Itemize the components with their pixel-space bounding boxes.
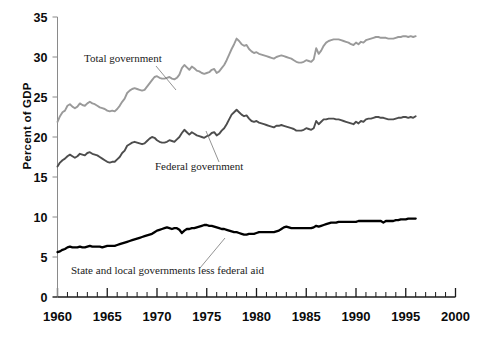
y-tick-label-25: 25 (34, 91, 48, 105)
x-tick-label-1990: 1990 (342, 309, 371, 324)
y-tick-label-0: 0 (41, 291, 48, 305)
y-tick-label-10: 10 (34, 211, 48, 225)
series-annotations-group: Total governmentFederal governmentState … (71, 52, 265, 276)
x-tick-label-1975: 1975 (192, 309, 221, 324)
x-tick-label-1995: 1995 (391, 309, 420, 324)
y-tick-label-15: 15 (34, 171, 48, 185)
x-tick-label-1985: 1985 (292, 309, 321, 324)
series-line-1 (58, 110, 416, 167)
x-tick-label-2000: 2000 (441, 309, 470, 324)
x-axis-tick-labels: 196019651970197519801985199019952000 (43, 309, 470, 324)
x-tick-label-1970: 1970 (143, 309, 172, 324)
annotation-label-1: Federal government (155, 160, 243, 172)
x-tick-label-1965: 1965 (93, 309, 122, 324)
annotation-label-0: Total government (84, 52, 162, 64)
series-line-2 (58, 219, 416, 253)
y-tick-label-30: 30 (34, 51, 48, 65)
annotation-label-2: State and local governments less federal… (71, 264, 265, 276)
data-series-group (58, 36, 416, 252)
chart-plot-area: 05101520253035 1960196519701975198019851… (0, 0, 477, 346)
chart-container: Percent of GDP 05101520253035 1960196519… (0, 0, 477, 346)
x-tick-label-1960: 1960 (43, 309, 72, 324)
y-axis-tick-labels: 05101520253035 (34, 11, 48, 305)
y-tick-label-35: 35 (34, 11, 48, 25)
x-tick-label-1980: 1980 (242, 309, 271, 324)
y-tick-label-20: 20 (34, 131, 48, 145)
y-tick-label-5: 5 (41, 251, 48, 265)
y-axis-tick-marks (53, 17, 58, 297)
